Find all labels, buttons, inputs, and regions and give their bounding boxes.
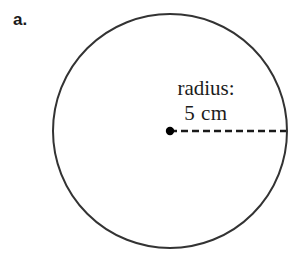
figure-container: a. radius: 5 cm	[0, 0, 304, 260]
geometry-diagram	[0, 0, 304, 260]
part-label: a.	[13, 10, 27, 30]
radius-annotation: radius: 5 cm	[150, 76, 262, 126]
radius-annotation-value: 5 cm	[150, 101, 262, 126]
radius-annotation-label: radius:	[150, 76, 262, 101]
center-dot	[166, 127, 174, 135]
